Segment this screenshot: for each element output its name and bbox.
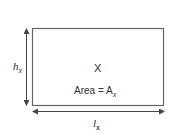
rectangle-name: X xyxy=(94,63,101,73)
length-label: lx xyxy=(93,118,100,130)
area-label: Area = Ax xyxy=(74,86,116,97)
height-label: hx xyxy=(13,61,22,73)
diagram-canvas xyxy=(0,0,173,134)
